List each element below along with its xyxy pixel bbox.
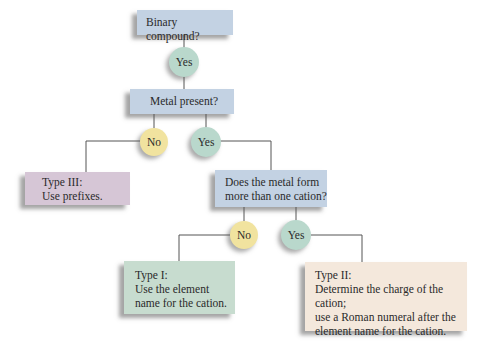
connector-yes-type2 xyxy=(311,235,362,262)
answer-yes-cation-text: Yes xyxy=(288,229,305,241)
result-type-i-title: Type I: xyxy=(135,268,235,282)
flowchart-canvas: Binary compound? Yes Metal present? No Y… xyxy=(0,0,496,344)
question-binary-compound-text: Binary compound? xyxy=(146,16,200,42)
result-type-i-rule-line2: name for the cation. xyxy=(135,296,235,310)
question-multiple-cations-line1: Does the metal form xyxy=(225,175,327,189)
answer-yes-metal-text: Yes xyxy=(198,136,215,148)
result-type-i: Type I: Use the element name for the cat… xyxy=(124,261,235,314)
result-type-ii-rule-line3: element name for the cation. xyxy=(315,324,467,338)
result-type-ii-rule-line1: Determine the charge of the cation; xyxy=(315,282,467,310)
answer-yes-metal: Yes xyxy=(191,127,221,157)
question-metal-present: Metal present? xyxy=(130,89,234,114)
question-multiple-cations-line2: more than one cation? xyxy=(225,189,327,203)
answer-no-cation: No xyxy=(230,221,258,249)
result-type-iii: Type III: Use prefixes. xyxy=(25,172,130,205)
answer-yes-cation: Yes xyxy=(281,220,311,250)
answer-yes-binary-text: Yes xyxy=(176,56,193,68)
question-multiple-cations: Does the metal form more than one cation… xyxy=(215,170,327,207)
connector-no-type1 xyxy=(179,235,230,261)
result-type-iii-rule: Use prefixes. xyxy=(42,189,130,203)
answer-yes-binary: Yes xyxy=(169,47,199,77)
connector-no-type3 xyxy=(86,141,140,172)
result-type-ii-title: Type II: xyxy=(315,268,467,282)
question-metal-present-text: Metal present? xyxy=(150,95,218,107)
answer-no-metal-text: No xyxy=(147,136,161,148)
result-type-ii-rule-line2: use a Roman numeral after the xyxy=(315,310,467,324)
question-binary-compound: Binary compound? xyxy=(137,10,233,35)
answer-no-cation-text: No xyxy=(237,229,251,241)
result-type-iii-title: Type III: xyxy=(42,175,130,189)
answer-no-metal: No xyxy=(140,128,168,156)
result-type-ii: Type II: Determine the charge of the cat… xyxy=(305,262,467,331)
connector-yes-q3 xyxy=(220,141,271,170)
result-type-i-rule-line1: Use the element xyxy=(135,282,235,296)
